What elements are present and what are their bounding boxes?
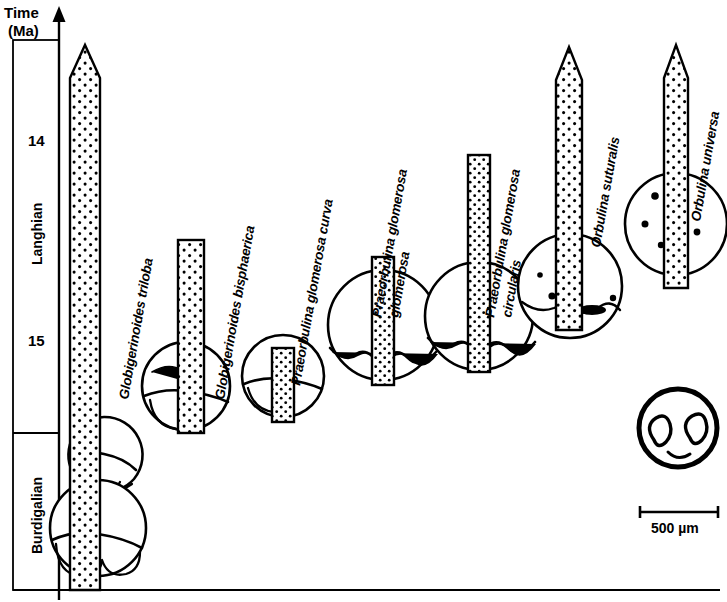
axis-title-line2: (Ma) — [8, 22, 39, 39]
range-bar-praeorbulina-glomerosa-circularis — [468, 155, 490, 372]
range-bar-globigerinoides-triloba — [70, 45, 100, 590]
scale-bar-label: 500 µm — [651, 520, 699, 536]
stage-label-langhian: Langhian — [29, 203, 45, 265]
range-bar-globigerinoides-bisphaerica — [178, 240, 204, 433]
specimen-orbulina-universa-detail — [639, 389, 717, 467]
range-bar-orbulina-suturalis — [556, 47, 582, 330]
scale-bar — [640, 506, 718, 518]
species-label-orbulina-suturalis: Orbulina suturalis — [588, 135, 622, 249]
figure-root: Time (Ma) 14 15 Langhian Burdigalian Glo… — [0, 0, 727, 602]
tick-label-15: 15 — [28, 332, 45, 349]
range-bar-orbulina-universa — [664, 45, 688, 288]
stage-label-burdigalian: Burdigalian — [29, 477, 45, 554]
range-chart-svg: Time (Ma) 14 15 Langhian Burdigalian Glo… — [0, 0, 727, 602]
axis-title-line1: Time — [4, 4, 39, 21]
tick-label-14: 14 — [28, 132, 45, 149]
